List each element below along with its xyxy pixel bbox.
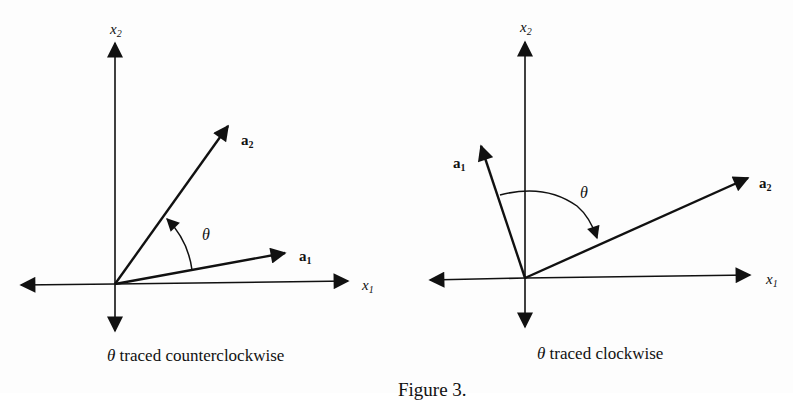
vector-a1 <box>481 146 525 278</box>
caption-text: traced clockwise <box>545 344 663 363</box>
caption-left: θ traced counterclockwise <box>107 346 284 366</box>
vector-a1-label: a1 <box>453 155 466 173</box>
vector-a2 <box>525 178 748 278</box>
x1-axis-label: x1 <box>361 277 374 295</box>
x2-axis-label: x2 <box>519 19 532 37</box>
theta-label: θ <box>202 226 210 243</box>
vector-a2 <box>115 126 228 284</box>
x1-axis-line <box>525 275 750 278</box>
x1-axis-negative-line <box>21 284 115 285</box>
caption-text: traced counterclockwise <box>115 346 284 365</box>
vector-a2-label: a2 <box>241 132 254 150</box>
figure-number-caption: Figure 3. <box>398 379 467 401</box>
vector-a1 <box>115 253 285 284</box>
caption-right: θ traced clockwise <box>537 344 663 364</box>
theta-label: θ <box>580 184 588 201</box>
x1-axis-negative-line <box>430 278 525 280</box>
panel-left: x2 x1 a2 a1 θ <box>21 21 374 331</box>
theta-arc-counterclockwise <box>167 219 192 270</box>
panel-right: x2 x1 a1 a2 θ <box>430 19 778 327</box>
vector-a2-label: a2 <box>759 175 772 193</box>
x1-axis-label: x1 <box>765 271 778 289</box>
x2-axis-label: x2 <box>109 21 122 39</box>
x1-axis-line <box>115 281 348 284</box>
vector-a1-label: a1 <box>299 248 312 266</box>
